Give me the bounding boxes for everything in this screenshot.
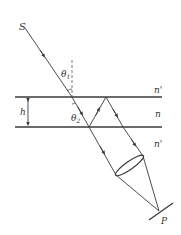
label-source: S [19, 21, 26, 32]
incident-ray [25, 28, 72, 97]
theta1-arc [67, 89, 72, 91]
label-theta1: θ1 [61, 69, 70, 80]
label-n-top: n' [154, 85, 162, 95]
refracted-ray-arrow [78, 107, 82, 114]
transmitted-ray-2-arrow [131, 139, 135, 145]
lens [113, 152, 145, 178]
label-n-film: n [155, 109, 161, 119]
theta2-arc [72, 103, 75, 104]
reflected-ray-up-arrow [96, 109, 99, 115]
thin-film-diagram: S θ1 θ2 h n' n n' P [0, 0, 181, 235]
label-n-bottom: n' [154, 139, 162, 149]
label-point-p: P [160, 216, 168, 226]
incident-ray-arrow [40, 50, 44, 56]
label-theta2: θ2 [71, 113, 80, 124]
reflected-ray-down-arrow [113, 109, 117, 116]
focused-ray-2 [143, 156, 159, 211]
transmitted-ray-1-arrow [100, 146, 104, 153]
focused-ray-1 [116, 175, 159, 211]
label-thickness: h [20, 107, 26, 117]
